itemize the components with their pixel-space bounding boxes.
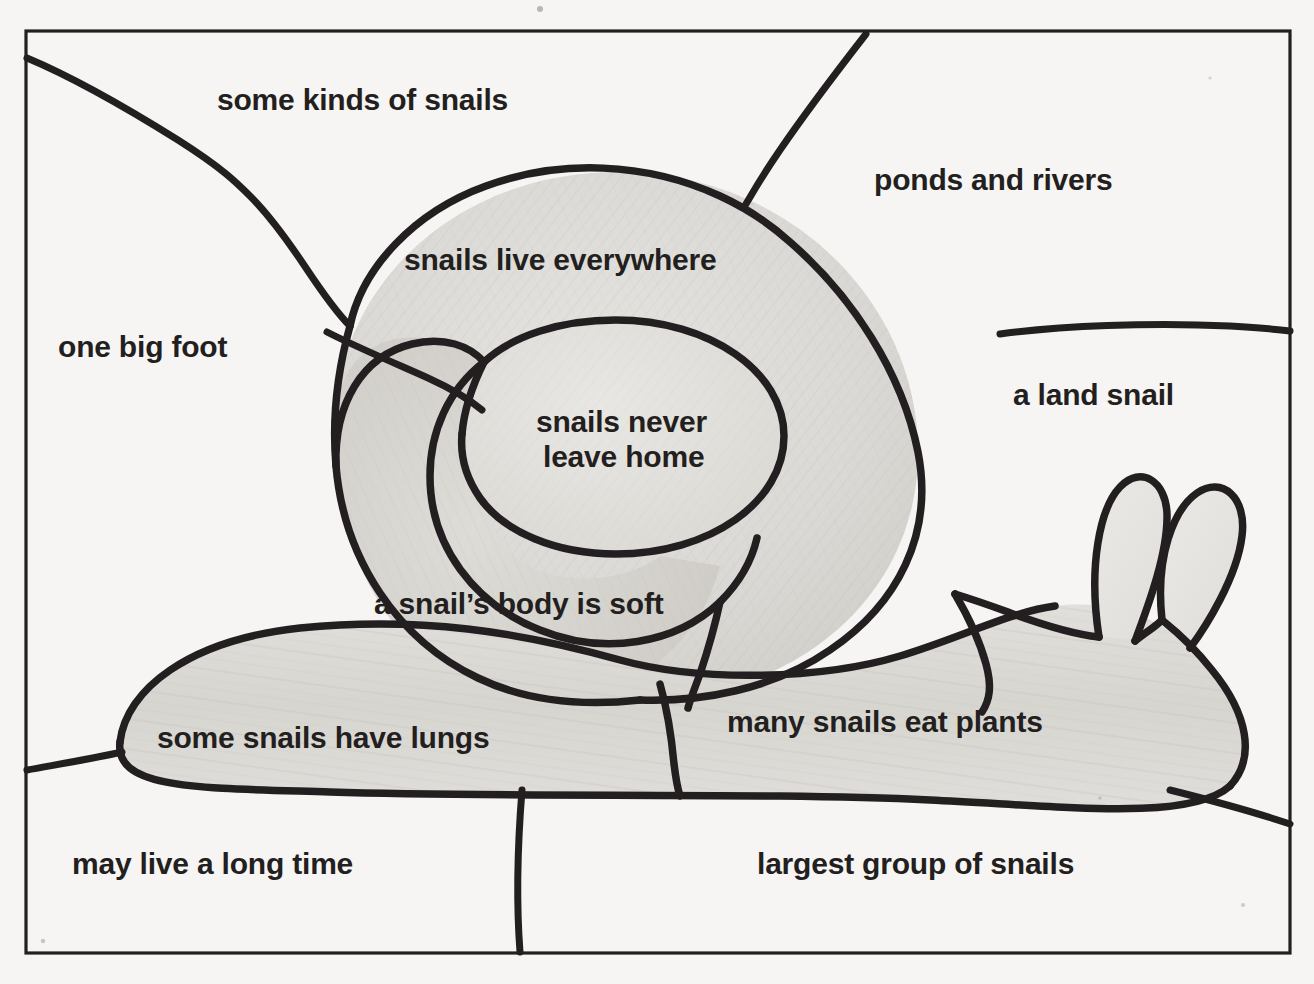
label-ponds-and-rivers: ponds and rivers <box>874 163 1113 197</box>
worksheet-page: some kinds of snails ponds and rivers sn… <box>0 0 1314 984</box>
label-some-kinds-of-snails: some kinds of snails <box>217 83 508 117</box>
label-a-snails-body-is-soft: a snail’s body is soft <box>374 587 664 621</box>
label-largest-group-of-snails: largest group of snails <box>757 847 1074 881</box>
label-snails-never-leave-home-line1: snails never <box>536 405 707 439</box>
label-a-land-snail: a land snail <box>1013 378 1174 412</box>
label-snails-never-leave-home-line2: leave home <box>543 440 704 474</box>
leader-may-live-a-long-time <box>518 790 522 952</box>
label-some-snails-have-lungs: some snails have lungs <box>157 721 489 755</box>
label-many-snails-eat-plants: many snails eat plants <box>727 705 1043 739</box>
snail-diagram <box>0 0 1314 984</box>
label-may-live-a-long-time: may live a long time <box>72 847 353 881</box>
label-one-big-foot: one big foot <box>58 330 227 364</box>
label-snails-live-everywhere: snails live everywhere <box>404 243 716 277</box>
